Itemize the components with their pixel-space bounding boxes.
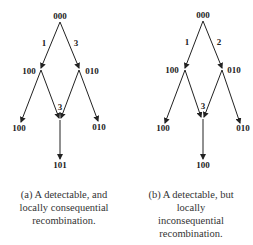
- node-bottom: 100: [196, 160, 210, 170]
- edge-left-bottom-left: [21, 70, 41, 122]
- edge-right-bottom-right: [222, 70, 240, 123]
- caption-line: (a) A detectable, and: [8, 188, 120, 201]
- node-left: 100: [22, 66, 36, 76]
- edge-right-merge: [61, 70, 79, 118]
- node-root: 000: [53, 11, 67, 21]
- node-left: 100: [165, 65, 179, 75]
- caption-line: locally: [135, 201, 247, 214]
- edge-right-bottom-right: [79, 70, 98, 121]
- node-root: 000: [196, 10, 210, 20]
- diagram-a: 000 1 3 100 010 3 100 010 101: [12, 11, 106, 170]
- node-bottom-left: 100: [12, 123, 26, 133]
- diagram-b: 000 1 2 100 010 3 100 010 100: [156, 10, 250, 170]
- caption-b: (b) A detectable, but locally inconseque…: [135, 188, 247, 240]
- node-bottom-right: 010: [236, 123, 250, 133]
- edge-label-root-right: 2: [217, 37, 222, 47]
- node-right: 010: [227, 65, 241, 75]
- node-bottom: 101: [53, 160, 67, 170]
- node-bottom-left: 100: [156, 123, 170, 133]
- node-bottom-right: 010: [92, 122, 106, 132]
- edge-label-root-left: 1: [185, 37, 190, 47]
- edge-left-merge: [185, 70, 201, 117]
- caption-line: (b) A detectable, but: [135, 188, 247, 201]
- edge-label-merge: 3: [58, 102, 63, 112]
- caption-line: recombination.: [8, 214, 120, 227]
- edge-left-merge: [41, 70, 59, 118]
- edge-right-merge: [204, 70, 222, 117]
- caption-line: inconsequential: [135, 214, 247, 227]
- node-right: 010: [85, 66, 99, 76]
- caption-line: recombination.: [135, 227, 247, 240]
- edge-label-merge: 3: [201, 101, 206, 111]
- edge-label-root-right: 3: [74, 38, 79, 48]
- caption-a: (a) A detectable, and locally consequent…: [8, 188, 120, 227]
- edge-label-root-left: 1: [42, 38, 47, 48]
- caption-line: locally consequential: [8, 201, 120, 214]
- edge-left-bottom-left: [165, 70, 185, 123]
